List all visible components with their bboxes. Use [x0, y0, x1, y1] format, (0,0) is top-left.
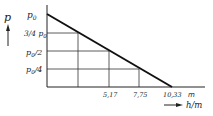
x-axis-label: h/m [186, 100, 202, 110]
x-unit-label: m [188, 91, 195, 99]
pressure-line [47, 14, 172, 87]
x-tick-5-17: 5,17 [103, 91, 118, 99]
y-tick-p0: p0 [27, 10, 37, 21]
x-tick-7-75: 7,75 [133, 91, 147, 99]
y-tick-p0-quarter: p0/4 [26, 65, 42, 75]
y-tick-p0-half: p0/2 [26, 48, 42, 58]
x-tick-10-33: 10,33 [163, 91, 182, 99]
pressure-height-chart: p p0 3/4 p0 p0/2 p0/4 5,17 7,75 10,33 m … [0, 0, 213, 116]
y-axis-arrow-icon [6, 24, 10, 46]
y-axis-label: p [4, 11, 11, 24]
x-axis-arrow-icon [164, 103, 183, 107]
y-tick-3-4-p0: 3/4 p0 [24, 29, 47, 39]
axes [47, 5, 205, 87]
